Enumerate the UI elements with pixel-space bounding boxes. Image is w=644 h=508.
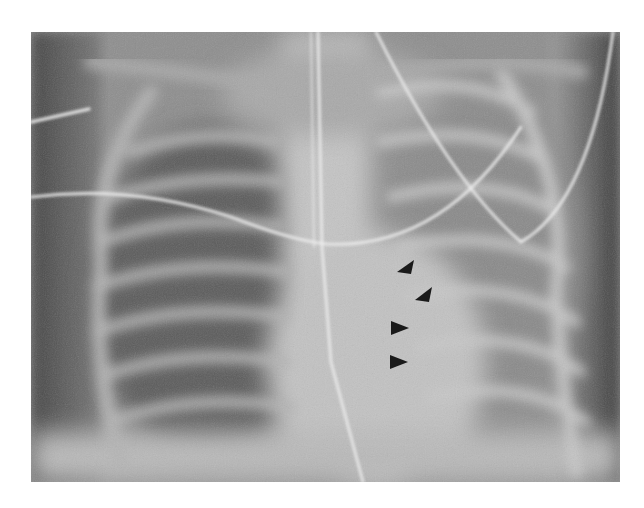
chest-xray-image xyxy=(31,32,620,482)
film-grain xyxy=(31,32,620,482)
xray-canvas xyxy=(31,32,620,482)
